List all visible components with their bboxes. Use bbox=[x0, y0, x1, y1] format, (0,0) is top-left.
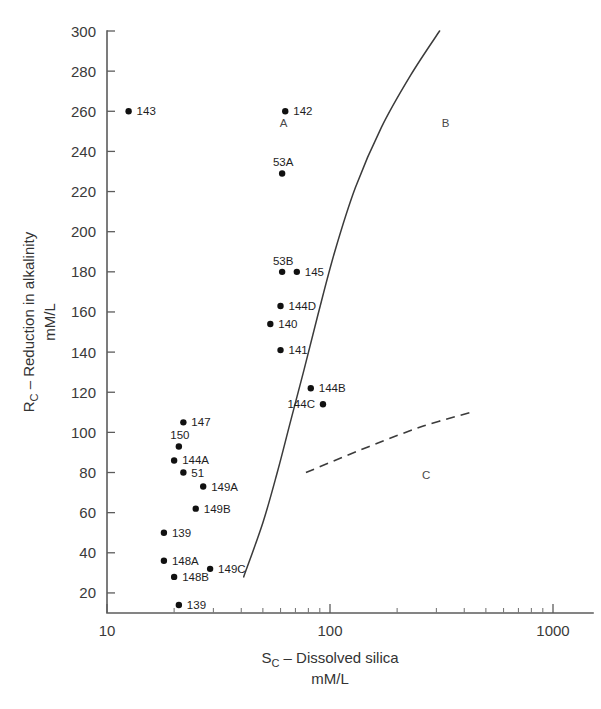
x-axis-title-text: – Dissolved silica bbox=[279, 649, 399, 666]
point-label: 139 bbox=[172, 527, 191, 539]
point-marker bbox=[161, 558, 167, 564]
point-marker bbox=[294, 269, 300, 275]
point-marker bbox=[171, 574, 177, 580]
point-label: 144A bbox=[182, 454, 209, 466]
point-marker bbox=[176, 443, 182, 449]
y-tick-label: 180 bbox=[71, 263, 96, 280]
y-axis-title-subscript: C bbox=[28, 393, 40, 401]
data-point: 53A bbox=[273, 156, 294, 176]
point-marker bbox=[176, 602, 182, 608]
point-label: 142 bbox=[293, 105, 312, 117]
point-label: 149B bbox=[204, 503, 231, 515]
y-tick-label: 300 bbox=[71, 23, 96, 40]
y-tick-label: 240 bbox=[71, 143, 96, 160]
data-point: 144B bbox=[308, 382, 346, 394]
region-label-c: C bbox=[422, 469, 430, 481]
point-marker bbox=[277, 303, 283, 309]
data-point: 145 bbox=[294, 266, 324, 278]
point-marker bbox=[171, 457, 177, 463]
curve-boundary-AB bbox=[244, 31, 440, 577]
y-tick-label: 120 bbox=[71, 384, 96, 401]
data-point: 149A bbox=[200, 481, 238, 493]
point-marker bbox=[180, 419, 186, 425]
svg-text:SC – Dissolved silica: SC – Dissolved silica bbox=[261, 649, 399, 669]
point-label: 145 bbox=[305, 266, 324, 278]
y-tick-label: 60 bbox=[79, 504, 96, 521]
scatter-plot: 2040608010012014016018020022024026028030… bbox=[0, 0, 601, 709]
point-label: 53B bbox=[273, 255, 294, 267]
point-marker bbox=[277, 347, 283, 353]
data-point: 53B bbox=[273, 255, 294, 275]
point-label: 51 bbox=[191, 467, 204, 479]
point-marker bbox=[308, 385, 314, 391]
y-tick-label: 20 bbox=[79, 584, 96, 601]
y-tick-label: 40 bbox=[79, 544, 96, 561]
point-marker bbox=[125, 108, 131, 114]
x-axis-title-symbol: S bbox=[261, 649, 271, 666]
y-axis-title: RC – Reduction in alkalinity mM/L bbox=[20, 231, 58, 412]
data-point: 142 bbox=[282, 105, 312, 117]
axis-spines bbox=[107, 31, 593, 613]
data-point: 144A bbox=[171, 454, 209, 466]
data-points: 14314253A53B145144D140141144B144C1471501… bbox=[125, 105, 346, 611]
data-point: 140 bbox=[267, 318, 297, 330]
y-axis-title-text: – Reduction in alkalinity bbox=[20, 231, 37, 393]
data-point: 144D bbox=[277, 300, 316, 312]
y-tick-label: 280 bbox=[71, 63, 96, 80]
x-axis-units: mM/L bbox=[311, 670, 349, 687]
svg-text:RC – Reduction in alkalinity: RC – Reduction in alkalinity bbox=[20, 231, 40, 412]
point-marker bbox=[193, 505, 199, 511]
chart-figure: 2040608010012014016018020022024026028030… bbox=[0, 0, 601, 709]
x-axis-title-subscript: C bbox=[271, 657, 279, 669]
point-label: 144D bbox=[289, 300, 317, 312]
point-marker bbox=[320, 401, 326, 407]
point-label: 144C bbox=[287, 398, 315, 410]
point-marker bbox=[279, 170, 285, 176]
y-tick-label: 160 bbox=[71, 303, 96, 320]
data-point: 150 bbox=[170, 429, 189, 449]
y-axis-title-symbol: R bbox=[20, 401, 37, 412]
data-point: 149C bbox=[207, 563, 246, 575]
boundary-curves bbox=[244, 31, 472, 577]
data-point: 139 bbox=[161, 527, 191, 539]
axes bbox=[107, 31, 593, 613]
axis-ticks bbox=[107, 31, 553, 613]
y-axis-units: mM/L bbox=[41, 303, 58, 341]
x-tick-label: 1000 bbox=[536, 622, 569, 639]
data-point: 51 bbox=[180, 467, 204, 479]
point-marker bbox=[180, 469, 186, 475]
point-label: 149C bbox=[218, 563, 246, 575]
x-axis-title: SC – Dissolved silica mM/L bbox=[261, 649, 399, 687]
y-tick-label: 80 bbox=[79, 464, 96, 481]
point-label: 139 bbox=[187, 599, 206, 611]
data-point: 144C bbox=[287, 398, 326, 410]
data-point: 143 bbox=[125, 105, 155, 117]
data-point: 141 bbox=[277, 344, 307, 356]
y-tick-label: 200 bbox=[71, 223, 96, 240]
data-point: 139 bbox=[176, 599, 206, 611]
point-marker bbox=[161, 530, 167, 536]
y-tick-label: 100 bbox=[71, 424, 96, 441]
x-tick-label: 100 bbox=[317, 622, 342, 639]
point-label: 144B bbox=[319, 382, 346, 394]
point-label: 150 bbox=[170, 429, 189, 441]
region-label-b: B bbox=[442, 117, 450, 129]
y-tick-label: 220 bbox=[71, 183, 96, 200]
point-label: 149A bbox=[211, 481, 238, 493]
point-marker bbox=[200, 483, 206, 489]
point-label: 141 bbox=[289, 344, 308, 356]
data-point: 148B bbox=[171, 571, 209, 583]
data-point: 149B bbox=[193, 503, 231, 515]
point-marker bbox=[279, 269, 285, 275]
curve-boundary-BC bbox=[306, 412, 471, 472]
point-label: 143 bbox=[137, 105, 156, 117]
point-label: 147 bbox=[191, 416, 210, 428]
point-marker bbox=[282, 108, 288, 114]
point-label: 140 bbox=[278, 318, 297, 330]
x-tick-label: 10 bbox=[99, 622, 116, 639]
point-label: 148B bbox=[182, 571, 209, 583]
y-tick-label: 260 bbox=[71, 103, 96, 120]
data-point: 148A bbox=[161, 555, 199, 567]
data-point: 147 bbox=[180, 416, 210, 428]
y-tick-label: 140 bbox=[71, 344, 96, 361]
